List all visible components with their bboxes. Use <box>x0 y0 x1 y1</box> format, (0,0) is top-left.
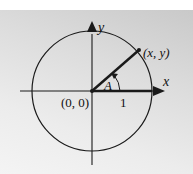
origin-label: (0, 0) <box>61 95 89 110</box>
unit-circle-diagram: y x (x, y) A (0, 0) 1 <box>0 0 193 174</box>
y-axis-label: y <box>96 20 105 35</box>
angle-arrow-icon <box>111 73 118 79</box>
radius-unit-label: 1 <box>120 95 127 110</box>
point-marker <box>137 48 141 52</box>
point-label: (x, y) <box>143 45 170 60</box>
x-axis-label: x <box>162 74 170 89</box>
origin-marker <box>90 89 94 93</box>
y-axis-arrow-icon <box>87 21 97 32</box>
radius-to-point <box>92 50 139 91</box>
unit-circle-figure: y x (x, y) A (0, 0) 1 <box>0 0 193 174</box>
angle-label: A <box>103 78 112 93</box>
